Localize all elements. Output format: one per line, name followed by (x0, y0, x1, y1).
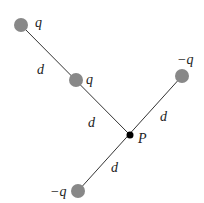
label-d-1: d (37, 62, 45, 77)
label-d-4: d (111, 160, 119, 175)
label-q-top: q (35, 15, 42, 30)
label-point-p: P (137, 131, 147, 146)
label-negq-right: −q (177, 52, 193, 67)
label-q-middle: q (86, 72, 93, 87)
label-d-2: d (88, 115, 96, 130)
charge-q-middle (69, 73, 83, 87)
point-p (127, 132, 134, 139)
charge-negq-bottom (71, 184, 85, 198)
label-d-3: d (160, 109, 168, 124)
charge-diagram: q q −q −q P d d d d (0, 0, 204, 203)
label-negq-bottom: −q (50, 184, 66, 199)
charge-negq-right (175, 69, 189, 83)
charge-q-top (14, 18, 28, 32)
